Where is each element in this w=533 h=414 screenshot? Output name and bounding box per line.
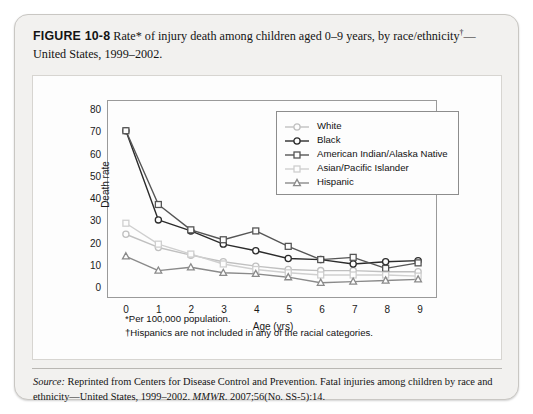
- legend-marker-icon: [284, 133, 310, 145]
- source-citation: Source: Reprinted from Centers for Disea…: [33, 374, 505, 404]
- legend-label: White: [317, 120, 342, 131]
- legend-label: American Indian/Alaska Native: [317, 148, 448, 159]
- chart-legend: WhiteBlackAmerican Indian/Alaska NativeA…: [276, 111, 459, 195]
- y-axis-tick: 80: [71, 104, 101, 115]
- y-axis-tick: 0: [71, 282, 101, 293]
- legend-marker-icon: [284, 161, 310, 173]
- legend-label: Hispanic: [317, 176, 354, 187]
- x-axis-tick: 9: [408, 304, 432, 315]
- chart-panel: Death rate Age (yrs) WhiteBlackAmerican …: [32, 75, 502, 360]
- legend-item: American Indian/Alaska Native: [284, 146, 448, 160]
- figure-caption-text: Rate* of injury death among children age…: [113, 29, 459, 43]
- legend-marker-icon: [284, 175, 310, 187]
- legend-marker-icon: [284, 147, 310, 159]
- legend-label: Asian/Pacific Islander: [317, 162, 409, 173]
- legend-marker-icon: [284, 119, 310, 131]
- footnote-asterisk: *Per 100,000 population.: [125, 312, 373, 326]
- chart-footnotes: *Per 100,000 population. †Hispanics are …: [125, 312, 373, 341]
- legend-item: Asian/Pacific Islander: [284, 160, 448, 174]
- y-axis-tick: 50: [71, 171, 101, 182]
- source-journal: MMWR.: [193, 391, 228, 402]
- source-text-2: 2007;56(No. SS-5):14.: [228, 391, 326, 402]
- source-label: Source:: [33, 376, 65, 387]
- x-axis-tick: 8: [375, 304, 399, 315]
- y-axis-tick: 70: [71, 126, 101, 137]
- figure-number: FIGURE 10-8: [33, 29, 110, 43]
- legend-item: Hispanic: [284, 174, 448, 188]
- y-axis-tick: 30: [71, 215, 101, 226]
- y-axis-tick: 10: [71, 260, 101, 271]
- legend-item: Black: [284, 132, 448, 146]
- y-axis-tick: 60: [71, 149, 101, 160]
- y-axis-tick: 20: [71, 238, 101, 249]
- plot-area: Death rate Age (yrs) WhiteBlackAmerican …: [107, 100, 437, 298]
- source-divider: [32, 368, 502, 369]
- figure-caption: FIGURE 10-8 Rate* of injury death among …: [33, 27, 503, 63]
- footnote-dagger: †Hispanics are not included in any of th…: [125, 326, 373, 340]
- figure-card: FIGURE 10-8 Rate* of injury death among …: [14, 14, 519, 400]
- legend-item: White: [284, 118, 448, 132]
- y-axis-tick: 40: [71, 193, 101, 204]
- legend-label: Black: [317, 134, 340, 145]
